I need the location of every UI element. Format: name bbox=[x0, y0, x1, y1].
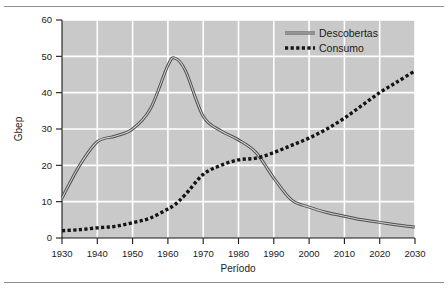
x-tick-label-1930: 1930 bbox=[51, 248, 72, 259]
y-axis-ticks bbox=[56, 20, 62, 238]
x-tick-label-2020: 2020 bbox=[369, 248, 390, 259]
figure-container: 0102030405060 19301940195019601970198019… bbox=[0, 0, 448, 290]
y-tick-label-0: 0 bbox=[47, 232, 52, 243]
legend-label-consumo: Consumo bbox=[319, 42, 364, 54]
y-tick-label-10: 10 bbox=[41, 196, 52, 207]
x-tick-label-1990: 1990 bbox=[263, 248, 284, 259]
line-chart: 0102030405060 19301940195019601970198019… bbox=[0, 0, 448, 290]
y-tick-label-40: 40 bbox=[41, 87, 52, 98]
y-tick-label-60: 60 bbox=[41, 14, 52, 25]
y-axis-title: Gbep bbox=[13, 116, 24, 141]
y-tick-label-20: 20 bbox=[41, 160, 52, 171]
x-axis-tick-labels: 1930194019501960197019801990200020102020… bbox=[51, 248, 425, 259]
y-tick-label-30: 30 bbox=[41, 123, 52, 134]
x-tick-label-1970: 1970 bbox=[193, 248, 214, 259]
y-tick-label-50: 50 bbox=[41, 51, 52, 62]
x-tick-label-1960: 1960 bbox=[157, 248, 178, 259]
x-tick-label-2030: 2030 bbox=[404, 248, 425, 259]
x-tick-label-2000: 2000 bbox=[299, 248, 320, 259]
x-tick-label-1950: 1950 bbox=[122, 248, 143, 259]
y-axis-tick-labels: 0102030405060 bbox=[41, 14, 52, 243]
x-tick-label-1940: 1940 bbox=[87, 248, 108, 259]
x-axis-title: Período bbox=[220, 263, 255, 274]
legend-label-descobertas: Descobertas bbox=[319, 27, 378, 39]
x-tick-label-2010: 2010 bbox=[334, 248, 355, 259]
x-tick-label-1980: 1980 bbox=[228, 248, 249, 259]
x-axis-ticks bbox=[62, 238, 415, 244]
